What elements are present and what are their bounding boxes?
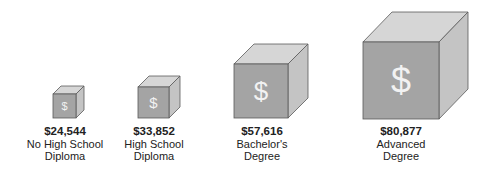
category-line: Advanced — [346, 138, 456, 151]
category-line: Diploma — [99, 150, 209, 163]
category-line: High School — [99, 138, 209, 151]
dollar-icon: $ — [61, 100, 67, 112]
category-line: Degree — [346, 150, 456, 163]
dollar-icon: $ — [391, 60, 411, 101]
label-high-school: $33,852 High School Diploma — [99, 125, 209, 163]
label-bachelors: $57,616 Bachelor's Degree — [207, 125, 317, 163]
category-line: Degree — [207, 150, 317, 163]
value-label: $57,616 — [207, 125, 317, 138]
cube-bachelors: $ — [234, 44, 308, 118]
category-line: Bachelor's — [207, 138, 317, 151]
value-label: $33,852 — [99, 125, 209, 138]
value-label: $80,877 — [346, 125, 456, 138]
label-advanced: $80,877 Advanced Degree — [346, 125, 456, 163]
cube-advanced: $ — [363, 12, 468, 119]
dollar-icon: $ — [254, 76, 269, 106]
dollar-icon: $ — [149, 94, 158, 111]
cube-high-school: $ — [138, 76, 180, 118]
cube-no-high-school: $ — [53, 86, 84, 118]
